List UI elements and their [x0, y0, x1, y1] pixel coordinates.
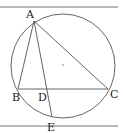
- border-rules: [0, 7, 118, 126]
- circle-center-dot: [62, 64, 63, 65]
- label-point-c: C: [110, 88, 118, 101]
- label-point-d: D: [38, 91, 47, 104]
- triangle-segments: [18, 21, 108, 117]
- geometry-figure: A B C D E: [0, 0, 123, 133]
- diagram-canvas: A B C D E: [0, 0, 123, 133]
- label-point-a: A: [25, 8, 35, 21]
- label-point-e: E: [47, 121, 55, 133]
- segment-ab: [18, 21, 34, 89]
- label-point-b: B: [12, 91, 20, 104]
- circumcircle: [11, 14, 115, 118]
